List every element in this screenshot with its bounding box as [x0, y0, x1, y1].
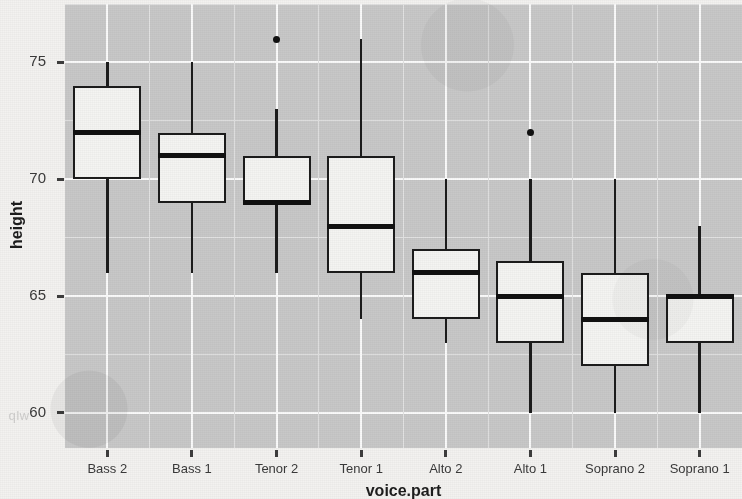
gridline-minor-vertical: [234, 4, 235, 448]
x-axis-tick-mark: [698, 450, 701, 457]
outlier-point: [527, 129, 534, 136]
whisker-upper: [275, 109, 278, 156]
y-axis-tick-label: 60: [10, 403, 46, 420]
y-axis-title: height: [8, 180, 26, 270]
gridline-minor-vertical: [657, 4, 658, 448]
whisker-lower: [360, 273, 363, 320]
whisker-upper: [106, 62, 109, 85]
x-axis-tick-mark: [190, 450, 193, 457]
outlier-point: [273, 36, 280, 43]
median-line: [412, 270, 480, 275]
box-iqr: [496, 261, 564, 343]
x-axis-tick-label: Soprano 2: [573, 461, 658, 476]
whisker-upper: [445, 179, 448, 249]
median-line: [243, 200, 311, 205]
median-line: [327, 224, 395, 229]
x-axis-tick-mark: [106, 450, 109, 457]
median-line: [73, 130, 141, 135]
x-axis-tick-label: Soprano 1: [657, 461, 742, 476]
x-axis-tick-mark: [444, 450, 447, 457]
x-axis-tick-mark: [360, 450, 363, 457]
gridline-minor-vertical: [572, 4, 573, 448]
x-axis-tick-label: Alto 1: [488, 461, 573, 476]
y-axis-tick-label: 65: [10, 286, 46, 303]
gridline-minor-vertical: [488, 4, 489, 448]
median-line: [158, 153, 226, 158]
gridline-minor-vertical: [149, 4, 150, 448]
x-axis-tick-label: Tenor 2: [234, 461, 319, 476]
whisker-lower: [529, 343, 532, 413]
x-axis-tick-mark: [275, 450, 278, 457]
gridline-minor-vertical: [318, 4, 319, 448]
x-axis-tick-mark: [614, 450, 617, 457]
y-axis-tick-label: 75: [10, 52, 46, 69]
x-axis-title: voice.part: [65, 482, 742, 499]
x-axis-tick-mark: [529, 450, 532, 457]
whisker-upper: [698, 226, 701, 296]
whisker-upper: [191, 62, 194, 132]
x-axis-tick-label: Tenor 1: [319, 461, 404, 476]
whisker-lower: [698, 343, 701, 413]
whisker-lower: [614, 366, 617, 413]
gridline-minor-vertical: [403, 4, 404, 448]
whisker-upper: [360, 39, 363, 156]
x-axis-tick-label: Bass 2: [65, 461, 150, 476]
median-line: [666, 294, 734, 299]
y-axis-tick-mark: [57, 295, 64, 298]
box-iqr: [243, 156, 311, 203]
box-iqr: [666, 296, 734, 343]
whisker-upper: [614, 179, 617, 272]
whisker-lower: [445, 319, 448, 342]
box-iqr: [327, 156, 395, 273]
y-axis-tick-mark: [57, 178, 64, 181]
box-iqr: [158, 133, 226, 203]
whisker-lower: [106, 179, 109, 272]
whisker-upper: [529, 179, 532, 261]
x-axis-tick-label: Bass 1: [150, 461, 235, 476]
y-axis-tick-mark: [57, 61, 64, 64]
box-iqr: [412, 249, 480, 319]
x-axis-tick-label: Alto 2: [404, 461, 489, 476]
median-line: [496, 294, 564, 299]
boxplot-figure: wlporgo 75706560 Bass 2Bass 1Tenor 2Teno…: [0, 0, 742, 499]
median-line: [581, 317, 649, 322]
whisker-lower: [275, 203, 278, 273]
whisker-lower: [191, 203, 194, 273]
y-axis-tick-mark: [57, 411, 64, 414]
